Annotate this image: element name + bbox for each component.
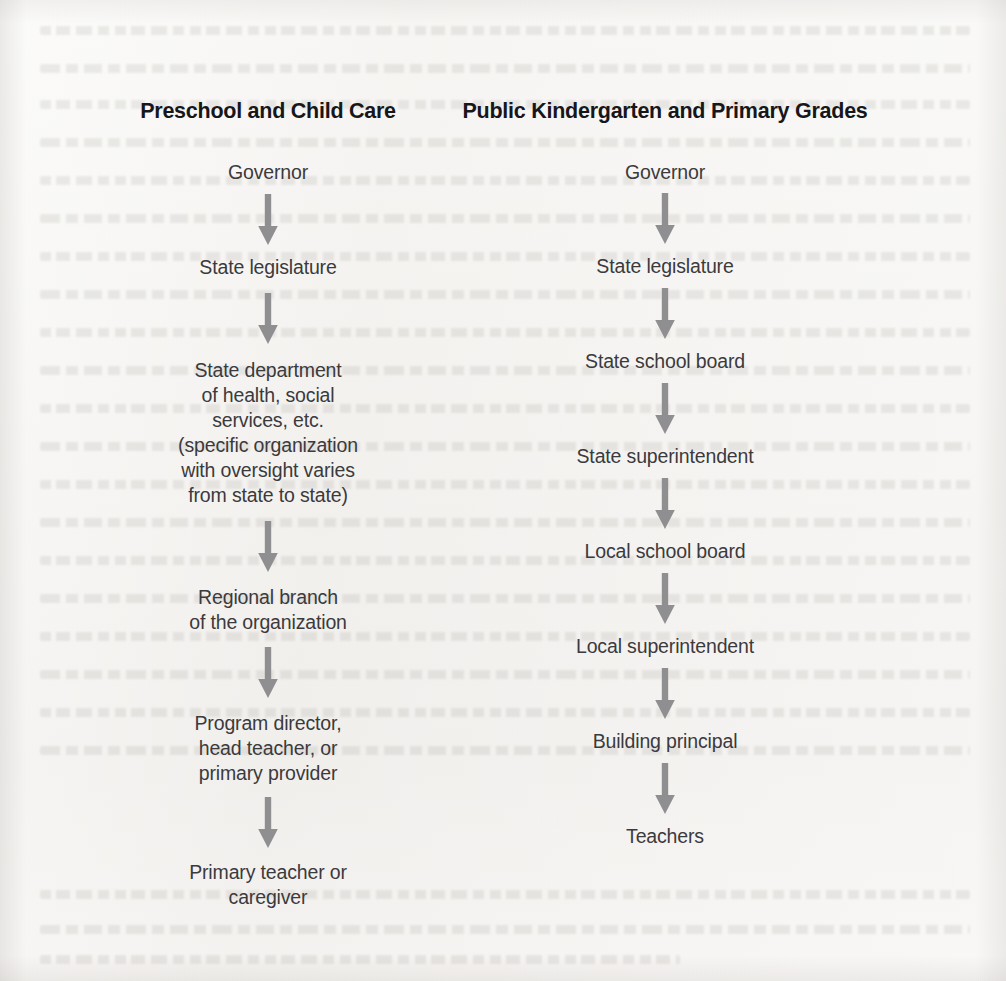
- flow-step: State school board: [585, 349, 745, 444]
- arrow-down-icon: [254, 194, 282, 246]
- node-state-superintendent: State superintendent: [577, 444, 754, 469]
- flow-step: State superintendent: [577, 444, 754, 539]
- flow-step: Regional branch of the organization: [189, 585, 347, 711]
- governance-flowchart: Preschool and Child Care Governor State …: [0, 0, 1006, 981]
- node-local-superintendent: Local superintendent: [576, 634, 754, 659]
- flow-step: Local school board: [585, 539, 746, 634]
- arrow-down-icon: [651, 763, 679, 815]
- flow-step: State legislature: [596, 254, 733, 349]
- node-building-principal: Building principal: [593, 729, 738, 754]
- arrow-down-icon: [651, 288, 679, 340]
- arrow-down-icon: [651, 478, 679, 530]
- arrow-down-icon: [254, 797, 282, 849]
- node-regional-branch: Regional branch of the organization: [189, 585, 347, 635]
- node-governor: Governor: [625, 160, 705, 185]
- node-teachers: Teachers: [626, 824, 704, 849]
- flow-step: Governor: [625, 160, 705, 254]
- node-primary-teacher-caregiver: Primary teacher or caregiver: [189, 860, 347, 910]
- flow-step: State department of health, social servi…: [178, 358, 358, 585]
- flow-step: Local superintendent: [576, 634, 754, 729]
- arrow-down-icon: [254, 521, 282, 573]
- node-state-legislature: State legislature: [199, 255, 336, 280]
- node-state-legislature: State legislature: [596, 254, 733, 279]
- column-title-public-kindergarten-primary-grades: Public Kindergarten and Primary Grades: [462, 98, 867, 124]
- flow-step: Building principal: [593, 729, 738, 824]
- node-state-school-board: State school board: [585, 349, 745, 374]
- column-title-preschool-child-care: Preschool and Child Care: [140, 98, 396, 124]
- arrow-down-icon: [254, 647, 282, 699]
- flow-step: Governor: [228, 160, 308, 255]
- arrow-down-icon: [651, 193, 679, 245]
- flowchart-column-preschool-child-care: Preschool and Child Care Governor State …: [118, 98, 418, 910]
- arrow-down-icon: [651, 668, 679, 720]
- flow-step: Primary teacher or caregiver: [189, 860, 347, 910]
- arrow-down-icon: [651, 383, 679, 435]
- arrow-down-icon: [254, 293, 282, 345]
- flow-step: Teachers: [626, 824, 704, 849]
- node-state-department: State department of health, social servi…: [178, 358, 358, 508]
- node-program-director: Program director, head teacher, or prima…: [194, 711, 341, 786]
- flow-step: State legislature: [199, 255, 336, 358]
- flow-step: Program director, head teacher, or prima…: [194, 711, 341, 860]
- arrow-down-icon: [651, 573, 679, 625]
- flowchart-column-public-kindergarten-primary-grades: Public Kindergarten and Primary Grades G…: [515, 98, 815, 849]
- node-governor: Governor: [228, 160, 308, 185]
- node-local-school-board: Local school board: [585, 539, 746, 564]
